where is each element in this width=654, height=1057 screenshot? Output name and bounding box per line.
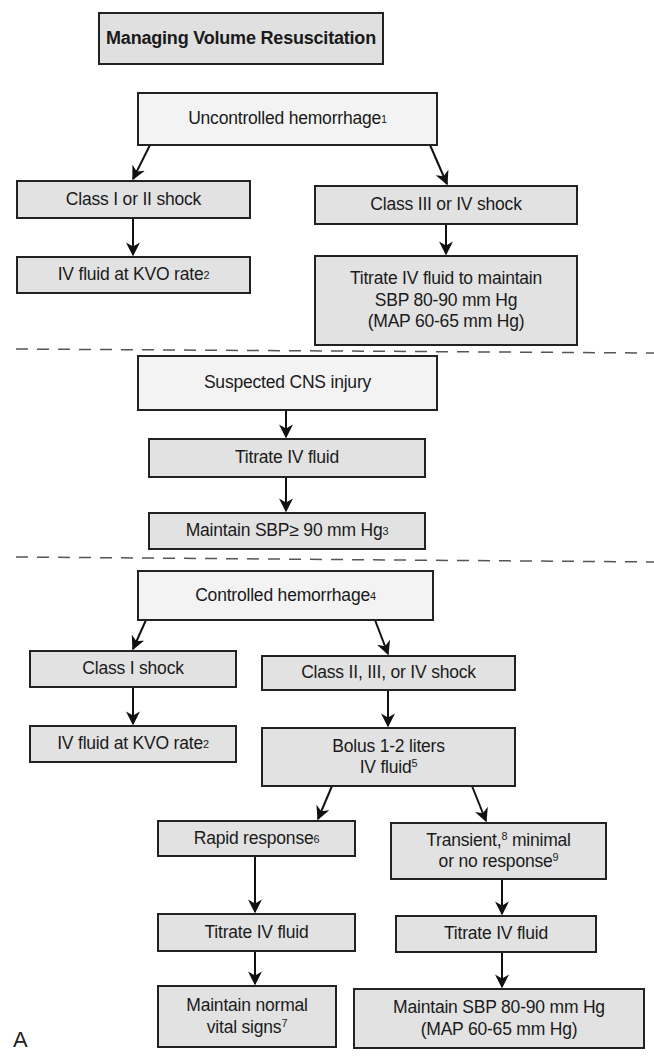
arrow-uncontrolled-to-class-1-2 [133,145,150,179]
node-text: Class I or II shock [66,189,201,210]
node-text: Rapid response [194,828,314,849]
node-text: Bolus 1-2 liters [332,736,445,756]
arrow-controlled-to-class-1 [133,620,146,649]
node-controlled-hemorrhage: Controlled hemorrhage4 [137,570,434,621]
node-maintain-sbp-90: Maintain SBP≥ 90 mm Hg3 [148,512,426,550]
footnote-ref: 7 [281,1017,287,1029]
section-divider-2 [16,557,654,562]
node-text-line-2: vital signs7 [207,1017,287,1038]
node-maintain-normal-vitals: Maintain normal vital signs7 [157,985,337,1048]
node-rapid-response: Rapid response6 [157,820,356,857]
node-text: IV fluid at KVO rate [57,733,203,754]
node-text: Transient, [426,830,501,850]
node-text: Suspected CNS injury [204,372,371,393]
node-rapid-titrate-iv-fluid: Titrate IV fluid [157,913,356,952]
node-text-line-1: Maintain normal [186,995,308,1016]
node-iv-fluid-kvo-controlled: IV fluid at KVO rate2 [29,725,237,763]
node-class-1-2-shock: Class I or II shock [16,180,251,219]
footnote-ref: 9 [553,851,559,863]
node-text: Titrate IV fluid to maintain SBP 80-90 m… [350,268,542,332]
node-titrate-maintain-sbp: Titrate IV fluid to maintain SBP 80-90 m… [314,255,578,346]
node-text: Titrate IV fluid [204,922,308,943]
node-text: Controlled hemorrhage [195,585,370,606]
node-bolus-iv-fluid: Bolus 1-2 liters IV fluid5 [261,727,516,787]
node-text: Maintain SBP 80-90 mm Hg (MAP 60-65 mm H… [393,997,605,1040]
node-iv-fluid-kvo-uncontrolled: IV fluid at KVO rate2 [16,256,251,294]
arrow-bolus-to-rapid [318,786,332,819]
figure-label: A [13,1027,28,1053]
footnote-ref: 5 [412,757,418,769]
arrow-bolus-to-transient [472,786,486,821]
node-text: IV fluid at KVO rate [58,264,204,285]
node-text: or no response [439,851,553,871]
node-text: Maintain normal [186,995,308,1015]
node-text: Class III or IV shock [370,194,521,215]
node-maintain-sbp-80-90: Maintain SBP 80-90 mm Hg (MAP 60-65 mm H… [353,988,645,1049]
node-text: Titrate IV fluid [235,447,339,468]
node-text-line-1: Transient,8 minimal [426,830,571,851]
node-text-line-2: IV fluid5 [360,757,418,778]
node-class-3-4-shock: Class III or IV shock [314,185,578,225]
node-suspected-cns-injury: Suspected CNS injury [137,355,438,411]
diagram-title-text: Managing Volume Resuscitation [106,28,376,50]
node-cns-titrate-iv-fluid: Titrate IV fluid [148,438,426,478]
section-divider-1 [16,349,654,353]
node-text: IV fluid [360,757,412,777]
node-text: Maintain SBP≥ 90 mm Hg [186,520,383,541]
node-text-line-2: or no response9 [439,851,559,872]
node-text: Titrate IV fluid [444,923,548,944]
diagram-title: Managing Volume Resuscitation [98,12,384,65]
node-text-line-1: Bolus 1-2 liters [332,736,445,757]
node-class-2-3-4-shock: Class II, III, or IV shock [261,655,516,691]
node-class-1-shock: Class I shock [29,650,237,688]
node-text: Uncontrolled hemorrhage [188,108,381,129]
node-text: Class II, III, or IV shock [301,662,476,683]
node-text: minimal [507,830,571,850]
node-uncontrolled-hemorrhage: Uncontrolled hemorrhage1 [137,92,438,146]
node-text: Class I shock [82,658,183,679]
arrow-controlled-to-class-2-4 [375,620,388,654]
node-transient-titrate-iv-fluid: Titrate IV fluid [395,915,597,953]
node-transient-minimal-response: Transient,8 minimal or no response9 [390,822,607,880]
node-text: vital signs [207,1017,282,1037]
arrow-uncontrolled-to-class-3-4 [430,145,447,184]
